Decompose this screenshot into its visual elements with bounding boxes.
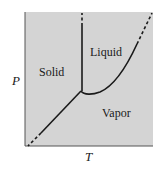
y-axis-label: P xyxy=(11,73,20,88)
region-label-solid: Solid xyxy=(39,65,64,79)
phase-diagram: Solid Liquid Vapor P T xyxy=(0,0,161,171)
region-label-liquid: Liquid xyxy=(90,45,122,59)
x-axis-label: T xyxy=(85,149,93,164)
plot-area xyxy=(25,12,153,146)
region-label-vapor: Vapor xyxy=(102,106,131,120)
